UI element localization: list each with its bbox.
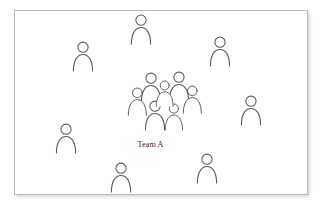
person-icon bbox=[130, 14, 152, 44]
person-icon bbox=[155, 80, 174, 106]
team-label: Team A bbox=[0, 140, 325, 150]
diagram-canvas: Team A bbox=[0, 0, 325, 211]
person-icon bbox=[72, 41, 94, 71]
team-label-text: Team A bbox=[137, 140, 163, 150]
person-icon bbox=[209, 36, 231, 66]
person-icon bbox=[164, 103, 184, 130]
person-icon bbox=[196, 153, 218, 183]
person-icon bbox=[110, 162, 132, 192]
person-icon bbox=[182, 85, 203, 113]
person-icon bbox=[240, 95, 262, 125]
